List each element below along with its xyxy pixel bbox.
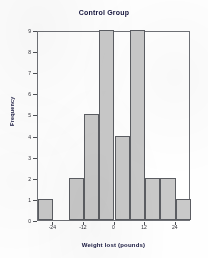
- histogram-bar: [130, 30, 145, 220]
- chart-figure: Control Group Frequency 0123456789 -24-1…: [0, 0, 208, 258]
- histogram-bar: [160, 178, 175, 220]
- x-axis-tick-label: 12: [141, 225, 147, 230]
- y-axis-tick-label: 5: [28, 113, 31, 118]
- histogram-bar: [176, 199, 191, 220]
- y-axis-title: Frequency: [9, 96, 15, 126]
- y-axis: 0123456789: [30, 31, 37, 221]
- x-axis-tick-label: -24: [49, 225, 56, 230]
- x-axis-tick-label: -12: [79, 225, 86, 230]
- histogram-bar: [99, 30, 114, 220]
- histogram-bars: [38, 32, 189, 220]
- y-axis-tick-label: 4: [28, 134, 31, 139]
- x-axis: -24-1201224: [37, 222, 190, 230]
- y-axis-tick-label: 8: [28, 50, 31, 55]
- histogram-bar: [38, 199, 53, 220]
- y-axis-tick-label: 2: [28, 176, 31, 181]
- y-axis-tick-label: 3: [28, 155, 31, 160]
- x-axis-tick-label: 24: [172, 225, 178, 230]
- plot-area: [37, 31, 190, 221]
- histogram-bar: [84, 114, 99, 220]
- x-axis-title: Weight lost (pounds): [37, 242, 190, 248]
- x-axis-tick-label: 0: [112, 225, 115, 230]
- chart-title: Control Group: [0, 9, 208, 16]
- y-axis-tick-label: 9: [28, 29, 31, 34]
- histogram-bar: [145, 178, 160, 220]
- histogram-bar: [69, 178, 84, 220]
- y-axis-tick-label: 1: [28, 197, 31, 202]
- histogram-bar: [115, 136, 130, 220]
- y-axis-tick-label: 7: [28, 71, 31, 76]
- y-axis-tick-label: 6: [28, 92, 31, 97]
- y-axis-tick-label: 0: [28, 219, 31, 224]
